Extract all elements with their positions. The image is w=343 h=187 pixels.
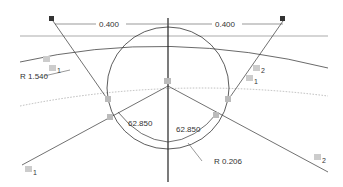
svg-text:2: 2: [261, 67, 265, 74]
angle-left-label[interactable]: 62.850: [128, 119, 153, 128]
large-arc-r1540[interactable]: [20, 46, 328, 68]
radius-small-label[interactable]: R 0.206: [214, 157, 243, 166]
svg-text:2: 2: [322, 157, 326, 164]
sketch-canvas[interactable]: 0.400 0.400 1 2 1 1 2 R 1.540 62.850 62.…: [0, 0, 343, 187]
radius-large-label[interactable]: R 1.540: [20, 72, 49, 81]
svg-text:1: 1: [254, 78, 258, 85]
endpoint-marker-left[interactable]: [49, 16, 54, 21]
slant-line-right[interactable]: [228, 21, 283, 100]
dimension-right[interactable]: 0.400: [215, 20, 236, 29]
angle-right-label[interactable]: 62.850: [176, 125, 201, 134]
dotted-construction-arc[interactable]: [20, 88, 328, 106]
slant-line-left[interactable]: [53, 21, 108, 100]
svg-text:1: 1: [33, 169, 37, 176]
dimension-left[interactable]: 0.400: [99, 20, 120, 29]
endpoint-marker-right[interactable]: [280, 16, 285, 21]
